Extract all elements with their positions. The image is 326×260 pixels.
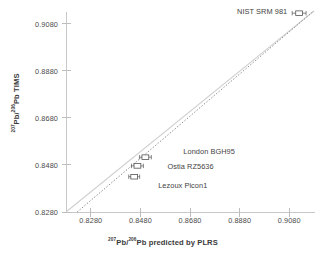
point-label: NIST SRM 981 xyxy=(237,7,287,16)
y-axis-title-mid: Pb/ xyxy=(12,112,21,124)
x-tick-label: 0.8880 xyxy=(212,216,268,225)
x-tick-label: 0.8280 xyxy=(63,216,119,225)
marker-rect xyxy=(142,155,149,160)
y-tick-mark xyxy=(62,23,71,24)
point-label: Ostia RZ5636 xyxy=(167,162,213,171)
y-axis-title-wrapper: 207Pb/206Pb TIMS xyxy=(5,33,23,173)
y-tick-mark xyxy=(62,212,71,213)
y-tick-mark xyxy=(62,164,71,165)
y-tick-mark xyxy=(62,117,71,118)
y-tick-label: 0.8280 xyxy=(6,208,58,217)
y-axis-title-sup-207: 207 xyxy=(11,124,16,132)
data-point xyxy=(292,11,306,16)
x-axis-title: 207Pb/206Pb predicted by PLRS xyxy=(0,238,326,247)
point-label: London BGH95 xyxy=(183,147,235,156)
data-point xyxy=(129,174,140,179)
marker-rect xyxy=(296,11,303,16)
x-axis-title-mid: Pb/ xyxy=(116,238,128,247)
marker-rect xyxy=(134,164,141,169)
x-axis-title-suffix: Pb predicted by PLRS xyxy=(137,238,218,247)
y-axis-title-sup-206: 206 xyxy=(11,104,16,112)
x-axis-title-sup-206: 206 xyxy=(128,237,136,242)
y-tick-label: 0.9080 xyxy=(6,20,58,29)
data-point xyxy=(139,155,151,160)
y-axis-title: 207Pb/206Pb TIMS xyxy=(12,73,21,132)
x-tick-label: 0.8680 xyxy=(162,216,218,225)
scatter-plot-figure: 0.82800.84800.86800.88800.90800.82800.84… xyxy=(0,0,326,260)
x-tick-label: 0.8480 xyxy=(112,216,168,225)
point-label: Lezoux Picon1 xyxy=(158,181,207,190)
y-tick-mark xyxy=(62,70,71,71)
y-axis-title-suffix: Pb TIMS xyxy=(12,73,21,104)
marker-rect xyxy=(131,174,138,179)
x-tick-label: 0.9080 xyxy=(261,216,317,225)
